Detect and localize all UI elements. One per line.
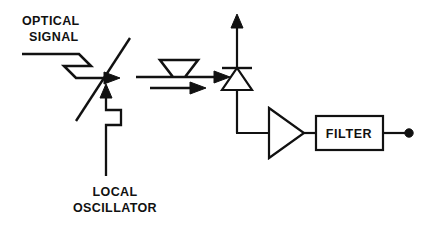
optical-signal-zigzag-path [22,54,106,78]
amplifier-icon [269,108,304,158]
local-oscillator-arrowhead [100,84,112,98]
optical-signal-label-line2: SIGNAL [29,30,79,44]
local-oscillator-label-line1: LOCAL [92,185,137,199]
combined-beam-upper-arrow [136,60,230,83]
photodiode-icon [222,14,252,133]
optical-signal-label-line1: OPTICAL [22,14,80,28]
local-oscillator-label-line2: OSCILLATOR [73,201,157,215]
local-oscillator-zigzag-path [106,96,121,176]
photodiode-output-arrowhead [231,14,243,28]
combined-beam-upper-zigzag-path [136,60,216,77]
filter-box-label: FILTER [326,127,372,141]
output-terminal-dot [405,129,413,137]
combined-beam-lower-arrow [150,82,206,94]
optical-signal-input-arrow [22,54,120,84]
optical-receiver-diagram: OPTICAL SIGNAL LOCAL OSCILLATOR FILTER [0,0,431,230]
photodiode-triangle-body [222,68,252,90]
combined-beam-lower-arrowhead [190,82,206,94]
local-oscillator-input-arrow [100,84,121,176]
diagram-canvas: OPTICAL SIGNAL LOCAL OSCILLATOR FILTER [0,0,431,230]
beam-splitter-icon [76,38,130,121]
